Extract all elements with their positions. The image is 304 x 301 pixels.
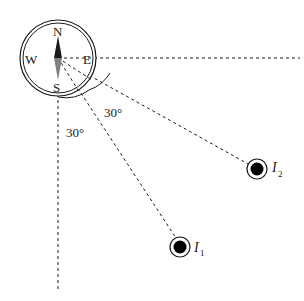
- source-1: I 1: [170, 237, 205, 258]
- source-1-dot-icon: [174, 241, 187, 254]
- source-2-label: I: [271, 160, 278, 175]
- diagram-canvas: 30° 30° N S E W I 1 I 2: [0, 0, 304, 301]
- compass-north-label: N: [53, 24, 63, 39]
- angle-label-1: 30°: [66, 125, 84, 140]
- source-2: I 2: [247, 159, 283, 179]
- compass-south-label: S: [53, 80, 60, 95]
- source-2-subscript: 2: [278, 169, 283, 179]
- compass-east-label: E: [83, 52, 91, 67]
- source-1-label: I: [193, 240, 200, 255]
- compass-west-label: W: [25, 52, 38, 67]
- source-2-dot-icon: [251, 163, 264, 176]
- compass: N S E W: [20, 20, 96, 96]
- source-1-subscript: 1: [200, 248, 205, 258]
- angle-label-2: 30°: [104, 105, 122, 120]
